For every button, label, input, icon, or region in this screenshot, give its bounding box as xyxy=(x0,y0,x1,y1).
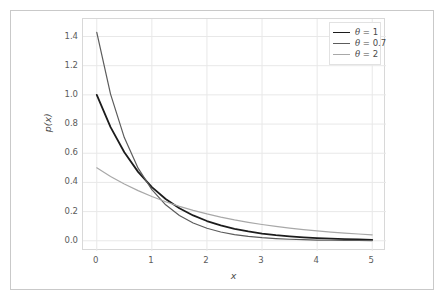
legend-line-swatch xyxy=(333,54,350,55)
y-axis-tick-labels: 0.00.20.40.60.81.01.21.4 xyxy=(50,18,78,250)
y-tick-label: 1.2 xyxy=(52,60,78,69)
x-tick-label: 1 xyxy=(136,256,166,265)
x-tick-label: 4 xyxy=(301,256,331,265)
x-tick-label: 3 xyxy=(246,256,276,265)
x-tick-label: 5 xyxy=(356,256,386,265)
series-line-theta-2 xyxy=(97,168,372,235)
y-tick-label: 1.0 xyxy=(52,90,78,99)
legend-item-theta-0.7[interactable]: θ = 0.7 xyxy=(333,38,376,49)
legend-item-theta-1[interactable]: θ = 1 xyxy=(333,27,376,38)
legend-line-swatch xyxy=(333,43,350,44)
legend-item-label: θ = 1 xyxy=(355,28,378,37)
figure: 0.00.20.40.60.81.01.21.4 012345 x p(x) θ… xyxy=(0,0,446,302)
y-tick-label: 0.4 xyxy=(52,177,78,186)
y-tick-label: 0.2 xyxy=(52,206,78,215)
legend: θ = 1θ = 0.7θ = 2 xyxy=(329,22,381,65)
legend-item-label: θ = 0.7 xyxy=(355,39,386,48)
y-tick-label: 0.6 xyxy=(52,148,78,157)
x-tick-label: 0 xyxy=(81,256,111,265)
y-tick-label: 0.0 xyxy=(52,236,78,245)
legend-item-theta-2[interactable]: θ = 2 xyxy=(333,49,376,60)
legend-line-swatch xyxy=(333,32,350,33)
y-axis-label: p(x) xyxy=(43,113,53,132)
x-tick-label: 2 xyxy=(191,256,221,265)
x-axis-label: x xyxy=(82,271,385,281)
x-axis-tick-labels: 012345 xyxy=(82,256,385,270)
y-tick-label: 1.4 xyxy=(52,31,78,40)
legend-item-label: θ = 2 xyxy=(355,50,378,59)
y-tick-label: 0.8 xyxy=(52,119,78,128)
